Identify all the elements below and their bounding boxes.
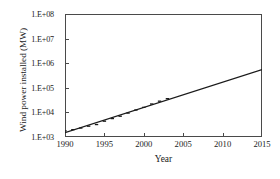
y-tick-mark: [65, 112, 69, 113]
x-tick-label: 2010: [214, 139, 231, 149]
x-tick-label: 2005: [175, 139, 192, 149]
x-tick-mark: [104, 133, 105, 137]
x-tick-mark: [183, 133, 184, 137]
y-tick-label: 1.E+05: [31, 83, 54, 92]
x-axis-title: Year: [65, 154, 262, 164]
x-tick-label: 1990: [56, 139, 73, 149]
x-tick-label: 2015: [253, 139, 270, 149]
y-axis-tick-labels: 1.E+031.E+041.E+051.E+061.E+071.E+08: [0, 0, 63, 179]
series-line: [65, 14, 262, 137]
y-tick-label: 1.E+03: [31, 133, 54, 142]
y-tick-mark: [65, 63, 69, 64]
y-tick-label: 1.E+04: [31, 108, 54, 117]
y-tick-label: 1.E+06: [31, 59, 54, 68]
trend-line: [65, 70, 262, 133]
x-tick-label: 2000: [135, 139, 152, 149]
y-tick-mark: [65, 39, 69, 40]
y-tick-label: 1.E+07: [31, 34, 54, 43]
chart-figure: Wind power installed (MW) 1.E+031.E+041.…: [0, 0, 280, 179]
y-tick-label: 1.E+08: [31, 10, 54, 19]
x-tick-mark: [223, 133, 224, 137]
x-tick-mark: [144, 133, 145, 137]
x-tick-label: 1995: [96, 139, 113, 149]
data-layer: [65, 14, 262, 137]
y-tick-mark: [65, 88, 69, 89]
